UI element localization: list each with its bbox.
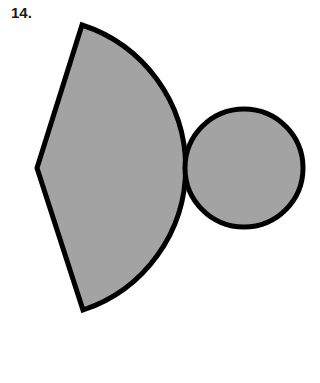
figure-diagram — [0, 0, 320, 383]
sector-shape — [37, 25, 186, 310]
circle-shape — [185, 109, 303, 227]
